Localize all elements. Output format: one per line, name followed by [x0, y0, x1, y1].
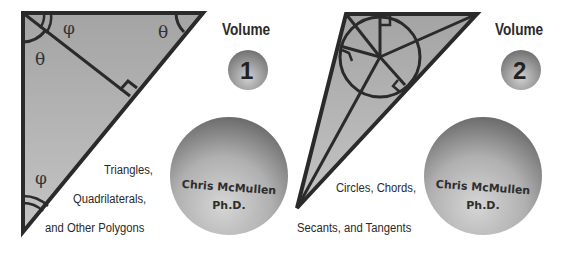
- volume-2-subtitle-line-2: Secants, and Tangents: [297, 221, 411, 235]
- volume-1-number: 1: [240, 57, 253, 85]
- theta-symbol: θ: [158, 22, 168, 42]
- volume-2-number: 2: [513, 57, 526, 85]
- volume-1-subtitle-line-3: and Other Polygons: [45, 221, 144, 235]
- volume-1-author-degree: Ph.D.: [168, 199, 290, 212]
- volume-1-author-sphere: [170, 117, 288, 235]
- volume-1-subtitle-line-1: Triangles,: [104, 163, 153, 177]
- phi-symbol: φ: [35, 168, 47, 188]
- volume-2-author-degree: Ph.D.: [422, 199, 544, 212]
- theta-symbol: θ: [35, 49, 45, 69]
- volume-2-label: Volume: [495, 21, 543, 39]
- phi-symbol: φ: [63, 18, 75, 38]
- volume-1-subtitle-line-2: Quadrilaterals,: [73, 192, 146, 206]
- volume-2-subtitle-line-1: Circles, Chords,: [336, 181, 416, 195]
- volume-2-author-sphere: [424, 117, 542, 235]
- volume-1-label: Volume: [222, 21, 270, 39]
